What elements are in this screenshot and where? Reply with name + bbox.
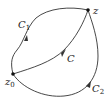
- path-c1: [12, 8, 88, 74]
- label-c: C: [67, 53, 75, 64]
- arrow-c2-icon: [86, 81, 91, 88]
- label-z0: z0: [4, 76, 15, 89]
- path-diagram: C1 C C2 z0 z: [0, 0, 110, 103]
- label-c1: C1: [18, 19, 30, 32]
- path-c2: [13, 10, 98, 96]
- label-c2: C2: [92, 83, 104, 96]
- point-z0: [11, 72, 15, 76]
- point-z: [86, 8, 90, 12]
- label-z: z: [92, 5, 99, 16]
